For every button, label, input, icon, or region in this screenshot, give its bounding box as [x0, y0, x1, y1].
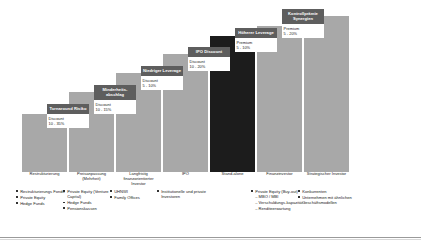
annotation-percent: Discount10 - 35%: [47, 114, 89, 129]
bullet-dot-icon: [16, 190, 18, 192]
bullet-subtext: Verschuldungs-kapazität: [259, 200, 303, 205]
percent-range: 5 - 20%: [284, 31, 323, 36]
annotation-tag: Minderheits-abschlag: [94, 85, 136, 100]
dash-icon: –: [255, 200, 257, 205]
bullet-list-6: KonkurrentenUnternehmen mit ähnlichen Ge…: [298, 189, 353, 206]
bullet-dot-icon: [63, 190, 65, 192]
bullet-dot-icon: [298, 190, 300, 192]
bullet-subtext: Renditeerwartung: [259, 206, 291, 211]
annotation-percent: Discount5 - 10%: [141, 76, 183, 91]
bullet-text: Private Equity (Venture Capital): [67, 189, 108, 199]
bullet-text: Family Offices: [114, 195, 140, 200]
bullet-dot-icon: [63, 202, 65, 204]
percent-range: 5 - 10%: [237, 45, 276, 50]
annotation-group: Kontrollprämie SynergienPremium5 - 20%: [282, 9, 324, 38]
annotation-percent: Discount10 - 20%: [188, 57, 230, 72]
footer-divider: [0, 237, 421, 238]
annotation-tag: Turnaround Risiko: [47, 104, 89, 114]
bullet-item: Unternehmen mit ähnlichen Geschäftsmodel…: [298, 195, 353, 206]
annotation-tag: Niedriger Leverage: [141, 66, 183, 76]
annotation-percent: Discount10 - 15%: [94, 100, 136, 115]
percent-range: 10 - 15%: [96, 107, 135, 112]
bar-column: [210, 0, 255, 172]
bullet-dot-icon: [16, 202, 18, 204]
bullet-dot-icon: [63, 207, 65, 209]
bullet-item: Konkurrenten: [298, 189, 353, 194]
bullet-text: Konkurrenten: [302, 189, 326, 194]
annotation-group: Turnaround RisikoDiscount10 - 35%: [47, 104, 89, 128]
category-label-line: Investor: [110, 182, 167, 187]
bar-6: [304, 16, 349, 172]
bullet-list-3: Institutionelle und private Investoren: [157, 189, 212, 200]
bullet-text: Unternehmen mit ähnlichen Geschäftsmodel…: [302, 195, 352, 205]
bullet-dot-icon: [110, 190, 112, 192]
dash-icon: –: [255, 206, 257, 211]
bullet-text: Hedge Funds: [67, 200, 91, 205]
bullet-text: Hedge Funds: [20, 201, 44, 206]
category-label-row: RestrukturierungPreisanpassung(Mehrheit)…: [0, 172, 421, 188]
bullet-text: UHNWI: [114, 189, 128, 194]
annotation-tag: Höherer Leverage: [235, 28, 277, 38]
bullet-dot-icon: [251, 190, 253, 192]
dash-icon: –: [255, 194, 257, 199]
bullet-text: Pensionskassen: [67, 206, 96, 211]
annotation-group: Minderheits-abschlagDiscount10 - 15%: [94, 85, 136, 114]
bullet-dot-icon: [298, 196, 300, 198]
investor-type-bullets: Restrukturierungs FondsPrivate EquityHed…: [0, 189, 421, 233]
bullet-text: Private Equity (Buy-out): [255, 189, 298, 194]
annotation-percent: Premium5 - 10%: [235, 38, 277, 53]
annotation-group: Höherer LeveragePremium5 - 10%: [235, 28, 277, 52]
annotation-percent: Premium5 - 20%: [282, 24, 324, 39]
annotation-group: Niedriger LeverageDiscount5 - 10%: [141, 66, 183, 90]
bullet-text: Institutionelle und private Investoren: [161, 189, 206, 199]
category-label-line: Strategischer Investor: [298, 172, 355, 177]
footer-divider-secondary: [0, 239, 421, 240]
bullet-text: Restrukturierungs Fonds: [20, 189, 64, 194]
bullet-dot-icon: [110, 196, 112, 198]
bullet-dot-icon: [157, 190, 159, 192]
bullet-item: Institutionelle und private Investoren: [157, 189, 212, 200]
percent-range: 10 - 35%: [49, 121, 88, 126]
bar-column: [22, 0, 67, 172]
bullet-text: Private Equity: [20, 195, 45, 200]
bullet-subitem: – Renditeerwartung: [255, 206, 306, 211]
bullet-item: Pensionskassen: [63, 206, 118, 211]
valuation-staircase-chart: Turnaround RisikoDiscount10 - 35%Minderh…: [0, 0, 421, 172]
annotation-tag: Kontrollprämie Synergien: [282, 9, 324, 24]
bullet-item: Hedge Funds: [63, 200, 118, 205]
bullet-dot-icon: [16, 196, 18, 198]
annotation-group: IPO DiscountDiscount10 - 20%: [188, 47, 230, 71]
annotation-tag: IPO Discount: [188, 47, 230, 57]
bullet-subtext: MBO / MBI: [259, 194, 279, 199]
percent-range: 10 - 20%: [190, 64, 229, 69]
category-label-6: Strategischer Investor: [298, 172, 355, 177]
percent-range: 5 - 10%: [143, 83, 182, 88]
